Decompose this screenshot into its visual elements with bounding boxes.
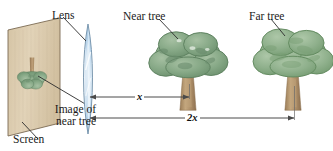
- label-near-tree: Near tree: [123, 11, 165, 23]
- label-image-of-near-tree-line1: Image of: [55, 103, 96, 115]
- optics-diagram: Lens Near tree Far tree Image of near tr…: [0, 0, 333, 151]
- label-far-tree: Far tree: [249, 11, 284, 23]
- label-image-of-near-tree: Image of near tree: [30, 103, 96, 127]
- far-tree-figure: [253, 29, 333, 110]
- dimension-label-2x: 2x: [185, 112, 200, 123]
- label-lens: Lens: [52, 10, 74, 22]
- label-image-of-near-tree-line2: near tree: [56, 115, 96, 127]
- dimension-label-x: x: [135, 91, 144, 102]
- label-screen: Screen: [13, 134, 44, 146]
- near-tree-figure: [149, 32, 228, 110]
- diagram-canvas: [0, 0, 333, 151]
